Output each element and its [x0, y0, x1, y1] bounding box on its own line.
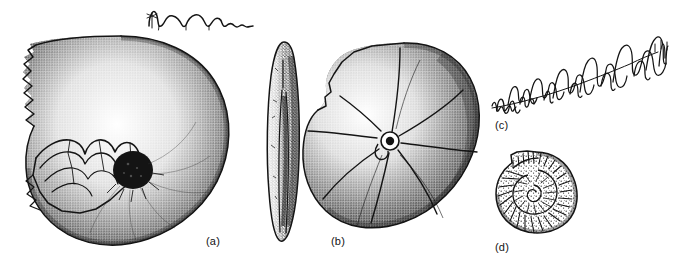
figure-illustration: [0, 0, 673, 267]
panel-label-d: (d): [495, 242, 509, 253]
panel-label-b: (b): [331, 236, 345, 247]
panel-label-c: (c): [495, 120, 508, 131]
panel-label-a: (a): [206, 236, 220, 247]
umbilicus-a: [113, 151, 153, 189]
figure-plate: (a) (b) (c) (d): [0, 0, 673, 267]
